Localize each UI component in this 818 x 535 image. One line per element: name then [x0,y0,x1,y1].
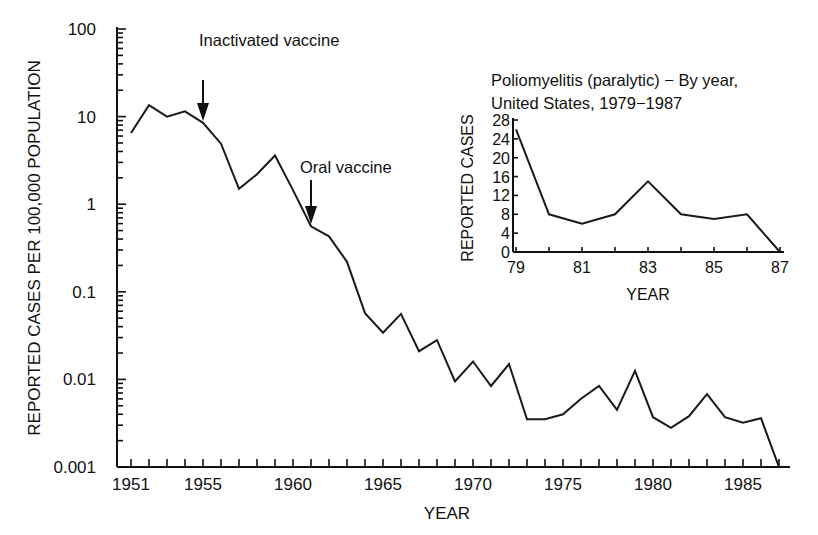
inset-x-tick-label: 87 [771,259,789,276]
inset-x-tick-label: 85 [705,259,723,276]
x-tick-label: 1980 [634,475,672,494]
inset-x-tick-label: 79 [507,259,525,276]
inset-chart: Poliomyelitis (paralytic) − By year, Uni… [459,71,789,303]
x-tick-label: 1975 [544,475,582,494]
main-data-line [131,105,779,467]
inset-y-tick-labels: 0481216202428 [492,112,510,261]
y-tick-label: 10 [77,108,96,127]
inset-y-tick-label: 28 [492,112,510,129]
x-tick-label: 1985 [724,475,762,494]
inset-x-tick-label: 83 [639,259,657,276]
main-y-tick-labels: 1001010.10.010.001 [53,20,96,477]
arrow-down-icon [305,206,317,224]
annotation-label: Inactivated vaccine [199,31,339,49]
x-tick-label: 1960 [274,475,312,494]
inset-y-tick-label: 4 [501,225,510,242]
inset-y-tick-label: 12 [492,187,510,204]
main-x-tick-labels: 19511955196019651970197519801985 [112,475,762,494]
x-tick-label: 1970 [454,475,492,494]
inset-y-tick-label: 24 [492,131,510,148]
inset-x-tick-label: 81 [573,259,591,276]
inset-y-tick-label: 8 [501,206,510,223]
x-tick-label: 1955 [184,475,222,494]
inset-ticks [513,120,780,252]
arrow-down-icon [197,103,209,121]
inset-y-tick-label: 20 [492,150,510,167]
x-tick-label: 1965 [364,475,402,494]
inset-y-axis-label: REPORTED CASES [459,114,476,261]
polio-chart: 1001010.10.010.001 195119551960196519701… [0,0,818,535]
inset-title-line-1: Poliomyelitis (paralytic) − By year, [491,71,738,89]
main-axes [117,27,790,467]
y-tick-label: 0.01 [63,370,96,389]
main-x-axis-label: YEAR [424,504,470,523]
inset-data-line [516,129,780,252]
y-tick-label: 100 [68,20,96,39]
inset-x-tick-labels: 7981838587 [507,259,789,276]
inset-y-tick-label: 16 [492,169,510,186]
annotation-label: Oral vaccine [300,158,392,176]
inset-x-axis-label: YEAR [626,286,670,303]
inset-title-line-2: United States, 1979−1987 [491,94,682,112]
y-tick-label: 0.001 [53,458,96,477]
main-y-axis-label: REPORTED CASES PER 100,000 POPULATION [25,60,44,435]
y-tick-label: 0.1 [72,283,96,302]
y-tick-label: 1 [87,195,96,214]
x-tick-label: 1951 [112,475,150,494]
inset-axes [513,118,784,252]
